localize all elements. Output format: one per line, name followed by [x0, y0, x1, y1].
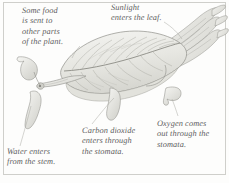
callout-carbon-dioxide: Carbon dioxide enters through the stomat… — [82, 126, 154, 157]
figure-root: Some food is sent to other parts of the … — [0, 0, 229, 183]
water-ribbon — [25, 91, 41, 129]
food-ribbon — [17, 57, 37, 80]
callout-food: Some food is sent to other parts of the … — [22, 6, 84, 48]
oxygen-ribbon — [163, 87, 181, 105]
callout-oxygen: Oxygen comes out through the stomata. — [157, 119, 219, 150]
callout-water: Water enters from the stem. — [7, 147, 77, 168]
leader-oxygen — [172, 99, 178, 116]
callout-sunlight: Sunlight enters the leaf. — [111, 3, 177, 24]
branch-tip-a — [212, 5, 226, 16]
stem-node-dot — [39, 85, 41, 87]
